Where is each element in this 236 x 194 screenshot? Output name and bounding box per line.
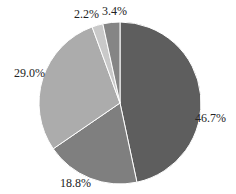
pie-chart: 46.7% 18.8% 29.0% 2.2% 3.4% (0, 0, 236, 194)
slice-label-2: 29.0% (14, 67, 45, 79)
slice-label-3: 2.2% (74, 8, 99, 20)
slice-label-1: 18.8% (60, 177, 91, 189)
slice-label-4: 3.4% (102, 5, 127, 17)
slice-label-0: 46.7% (195, 112, 226, 124)
pie-plot (0, 0, 236, 194)
